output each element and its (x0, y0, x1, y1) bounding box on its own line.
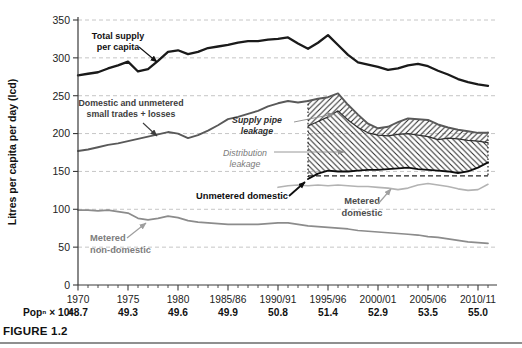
svg-text:Supply pipe: Supply pipe (232, 115, 282, 125)
population-value: 55.0 (468, 307, 488, 318)
y-axis-ticks: 050100150200250300350 (52, 14, 78, 291)
annotation-metered-non-domestic-label: Meterednon-domestic (90, 223, 151, 255)
svg-text:per capita: per capita (97, 42, 141, 52)
svg-text:50: 50 (58, 241, 70, 253)
x-tick-label: 2010/11 (460, 294, 496, 305)
svg-text:non-domestic: non-domestic (90, 245, 151, 255)
annotation-total-supply-label: Total supplyper capita (92, 31, 157, 62)
annotation-unmetered-domestic-label: Unmetered domestic (196, 182, 305, 201)
svg-text:0: 0 (64, 279, 70, 291)
annotation-domestic-label: Domestic and unmeteredsmall trades + los… (78, 98, 183, 136)
leakage-bands (308, 93, 488, 179)
x-tick-label: 1985/86 (210, 294, 247, 305)
population-value: 49.9 (218, 307, 238, 318)
svg-text:Total supply: Total supply (92, 31, 144, 41)
population-value: 53.5 (418, 307, 438, 318)
population-value: 52.9 (368, 307, 388, 318)
water-supply-chart: 050100150200250300350197048.7197549.3198… (0, 0, 522, 322)
svg-text:Metered: Metered (90, 233, 126, 243)
population-value: 49.6 (168, 307, 188, 318)
x-tick-label: 2005/06 (410, 294, 447, 305)
svg-text:200: 200 (52, 127, 70, 139)
x-tick-label: 1970 (67, 294, 90, 305)
series-metered-domestic (278, 184, 488, 191)
figure-caption: FIGURE 1.2 (3, 325, 68, 337)
svg-text:250: 250 (52, 90, 70, 102)
svg-text:Unmetered domestic: Unmetered domestic (196, 191, 288, 201)
svg-text:150: 150 (52, 165, 70, 177)
figure-caption-bar: FIGURE 1.2 (0, 321, 522, 344)
svg-text:leakage: leakage (230, 159, 261, 169)
svg-text:domestic: domestic (342, 208, 383, 218)
x-tick-label: 1990/91 (260, 294, 297, 305)
series-total-supply (78, 35, 488, 86)
svg-text:Domestic and unmetered: Domestic and unmetered (78, 98, 183, 108)
x-tick-label: 1980 (167, 294, 190, 305)
series-metered-non-domestic (78, 210, 488, 243)
svg-text:Distribution: Distribution (223, 148, 267, 158)
svg-text:Metered: Metered (344, 196, 380, 206)
population-value: 51.4 (318, 307, 338, 318)
svg-text:100: 100 (52, 203, 70, 215)
figure-1-2-panel: 050100150200250300350197048.7197549.3198… (0, 0, 522, 348)
population-value: 50.8 (268, 307, 288, 318)
annotation-metered-domestic-label: Metereddomestic (342, 189, 391, 218)
svg-text:small trades + losses: small trades + losses (87, 109, 176, 119)
x-tick-label: 1975 (117, 294, 140, 305)
x-tick-label: 2000/01 (360, 294, 397, 305)
population-row-label: Popⁿ × 10⁶ (23, 307, 74, 318)
svg-text:350: 350 (52, 14, 70, 26)
svg-text:300: 300 (52, 52, 70, 64)
y-axis-title: Litres per capita per day (lcd) (6, 79, 18, 225)
svg-text:leakage: leakage (241, 126, 273, 136)
population-value: 49.3 (118, 307, 138, 318)
x-axis-ticks: 197048.7197549.3198049.61985/8649.91990/… (23, 285, 496, 318)
x-tick-label: 1995/96 (310, 294, 347, 305)
